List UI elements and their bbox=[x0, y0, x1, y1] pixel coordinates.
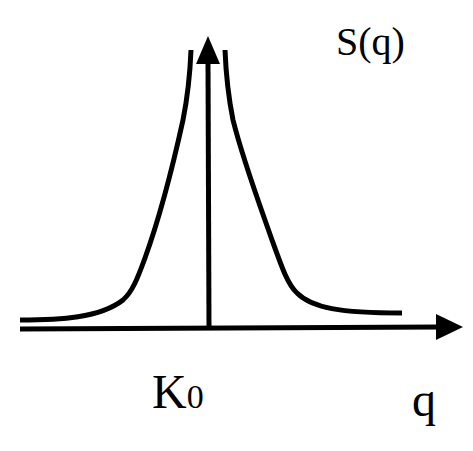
peak-position-label: K0 bbox=[152, 368, 204, 416]
diagram-canvas bbox=[0, 0, 473, 451]
x-axis-line bbox=[20, 327, 440, 329]
k0-vertical-line bbox=[208, 62, 209, 328]
peak-curve bbox=[225, 50, 402, 313]
peak-label-main: K bbox=[152, 365, 187, 418]
y-axis-label: S(q) bbox=[336, 22, 405, 62]
peak-curve bbox=[20, 50, 191, 320]
peak-label-subscript: 0 bbox=[187, 378, 204, 415]
x-axis-label: q bbox=[412, 376, 436, 424]
x-axis-arrowhead-icon bbox=[436, 314, 463, 340]
vertical-arrowhead-icon bbox=[196, 36, 220, 64]
